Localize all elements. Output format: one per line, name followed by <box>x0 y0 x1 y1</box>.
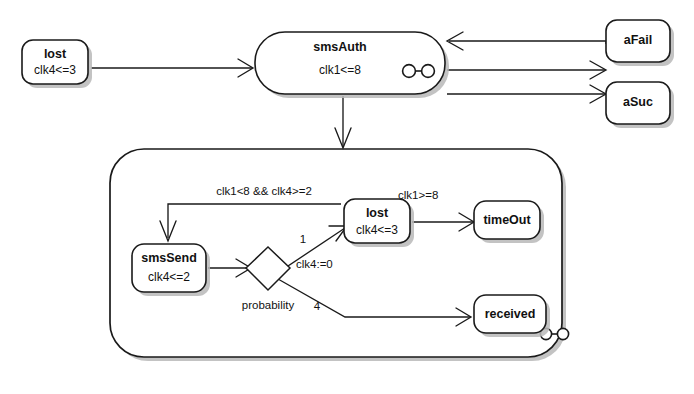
state-invariant: clk1<=8 <box>319 63 361 77</box>
edge-smsauth-to-afail <box>447 61 606 79</box>
weight-label-upper: 1 <box>300 233 306 245</box>
state-afail[interactable]: aFail <box>606 20 674 66</box>
state-asuc[interactable]: aSuc <box>606 82 674 128</box>
state-lost-inner[interactable]: lost clk4<=3 <box>344 199 414 247</box>
state-lost-outer[interactable]: lost clk4<=3 <box>22 40 92 88</box>
state-label: lost <box>44 47 67 61</box>
state-label: aFail <box>624 33 653 47</box>
state-smssend[interactable]: smsSend clk4<=2 <box>132 244 210 296</box>
statechart-diagram: lost clk4<=3 smsAuth clk1<=8 aFail aSuc <box>0 0 694 394</box>
state-label: aSuc <box>623 95 653 109</box>
diagram-canvas: lost clk4<=3 smsAuth clk1<=8 aFail aSuc <box>0 0 694 394</box>
action-label-clk4-reset: clk4:=0 <box>296 258 333 270</box>
weight-label-lower: 4 <box>314 300 321 312</box>
guard-label-lost-to-timeout: clk1>=8 <box>398 189 438 201</box>
state-invariant: clk4<=3 <box>356 223 398 237</box>
state-label: smsAuth <box>313 40 366 54</box>
edge-smsauth-to-asuc <box>447 85 606 103</box>
state-invariant: clk4<=3 <box>34 63 76 77</box>
state-label: lost <box>366 206 389 220</box>
state-received[interactable]: received <box>474 295 550 337</box>
state-label: timeOut <box>483 213 531 227</box>
state-label: received <box>485 307 536 321</box>
edge-lost-to-smsauth <box>91 59 253 77</box>
guard-label-lost-to-smssend: clk1<8 && clk4>=2 <box>216 185 312 197</box>
probability-label: probability <box>242 299 295 311</box>
state-timeout[interactable]: timeOut <box>474 201 544 243</box>
edge-smsauth-to-region <box>335 96 351 148</box>
state-smsauth[interactable]: smsAuth clk1<=8 <box>255 32 449 98</box>
state-invariant: clk4<=2 <box>148 270 190 284</box>
edge-afail-to-smsauth <box>447 32 606 50</box>
state-label: smsSend <box>141 251 197 265</box>
